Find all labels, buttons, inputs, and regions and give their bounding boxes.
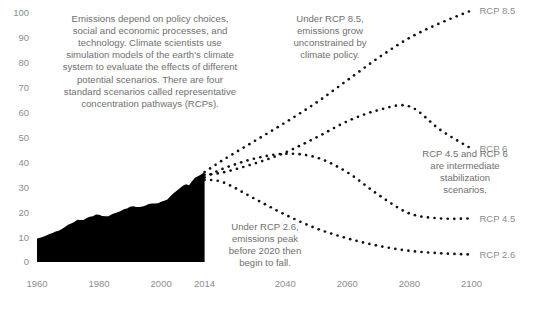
series-dot (229, 169, 232, 172)
series-dot (333, 127, 336, 130)
series-dot (330, 162, 333, 165)
series-dot (353, 175, 356, 178)
series-dot (344, 121, 347, 124)
series-dot (427, 251, 430, 254)
y-axis-tick-label: 30 (18, 182, 29, 193)
series-dot (264, 203, 267, 206)
series-dot (209, 167, 212, 170)
series-dot (293, 218, 296, 221)
series-dot (362, 241, 365, 244)
series-dot (374, 191, 377, 194)
series-dot (414, 214, 417, 217)
y-axis-tick-label: 80 (18, 57, 29, 68)
chart-canvas: 0102030405060708090100 19601980200020142… (0, 0, 551, 312)
annotation-text-line: before 2020 then (229, 245, 302, 256)
series-dot (287, 215, 290, 218)
series-dot (292, 148, 295, 151)
series-dot (385, 199, 388, 202)
series-dot (298, 153, 301, 156)
series-dot (326, 93, 329, 96)
series-dot (305, 223, 308, 226)
series-dot (299, 112, 302, 115)
x-axis-tick-label: 1980 (88, 278, 109, 289)
x-axis-tick-label: 2040 (275, 278, 296, 289)
series-dot (446, 217, 449, 220)
series-dot (246, 193, 249, 196)
series-dot (429, 120, 432, 123)
emissions-scenarios-chart: 0102030405060708090100 19601980200020142… (0, 0, 551, 312)
series-dot (420, 215, 423, 218)
series-dot (304, 108, 307, 111)
x-axis-tick-label: 1960 (26, 278, 47, 289)
series-dot (235, 187, 238, 190)
series-dot (315, 101, 318, 104)
annotation-text-line: stabilization (440, 172, 490, 183)
series-dot (401, 209, 404, 212)
series-dot (401, 104, 404, 107)
annotation-intermediate-note: RCP 4.5 and RCP 6are intermediatestabili… (422, 148, 508, 195)
series-dot (414, 250, 417, 253)
series-dot (408, 105, 411, 108)
series-dot (456, 139, 459, 142)
series-dot (331, 90, 334, 93)
series-dot (462, 142, 465, 145)
x-axis-tick-label: 2100 (461, 278, 482, 289)
series-dot (336, 165, 339, 168)
series-dot (242, 146, 245, 149)
series-label-rcp-2-6: RCP 2.6 (479, 249, 515, 260)
series-dot (419, 111, 422, 114)
series-dot (440, 252, 443, 255)
annotation-rcp26-note: Under RCP 2.6,emissions peakbefore 2020 … (229, 221, 302, 268)
annotation-text-line: standard scenarios called representative (64, 86, 236, 97)
series-dot (419, 31, 422, 34)
series-dot (259, 156, 262, 159)
series-dot (407, 212, 410, 215)
series-dot (347, 172, 350, 175)
annotation-text-line: begin to fall. (239, 257, 291, 268)
annotation-text-line: emissions peak (232, 233, 298, 244)
series-dot (220, 160, 223, 163)
series-dot (234, 163, 237, 166)
series-dot (223, 171, 226, 174)
series-dot (282, 122, 285, 125)
y-axis-tick-label: 0 (24, 256, 29, 267)
series-dot (253, 157, 256, 160)
series-dot (369, 111, 372, 114)
series-dot (466, 217, 469, 220)
series-labels: RCP 8.5RCP 6RCP 4.5RCP 2.6 (479, 5, 515, 260)
series-dot (363, 66, 366, 69)
annotation-text-line: are intermediate (430, 160, 499, 171)
series-dot (272, 153, 275, 156)
series-dot (324, 159, 327, 162)
series-dot (267, 158, 270, 161)
series-dot (275, 209, 278, 212)
series-dot (385, 51, 388, 54)
series-dot (248, 164, 251, 167)
series-dot (347, 78, 350, 81)
series-dot (240, 190, 243, 193)
series-dot (342, 82, 345, 85)
series-label-rcp-8-5: RCP 8.5 (479, 5, 515, 16)
series-dot (315, 136, 318, 139)
series-dot (402, 40, 405, 43)
series-dot (321, 133, 324, 136)
annotation-text-line: unconstrained by (293, 37, 366, 48)
series-dot (431, 25, 434, 28)
series-dot (311, 155, 314, 158)
series-dot (437, 23, 440, 26)
series-dot (341, 168, 344, 171)
annotation-text-line: technology. Climate scientists use (78, 37, 222, 48)
series-dot (353, 74, 356, 77)
series-dot (210, 179, 213, 182)
series-dot (265, 155, 268, 158)
annotation-text-line: concentration pathways (RCPs). (81, 98, 219, 109)
annotation-text-line: scenarios. (443, 184, 487, 195)
series-dot (453, 217, 456, 220)
series-dot (281, 212, 284, 215)
series-dot (357, 115, 360, 118)
series-dot (433, 217, 436, 220)
x-axis-tick-label: 2060 (337, 278, 358, 289)
historical-emissions-area (37, 172, 205, 262)
series-dot (337, 86, 340, 89)
series-dot (434, 125, 437, 128)
